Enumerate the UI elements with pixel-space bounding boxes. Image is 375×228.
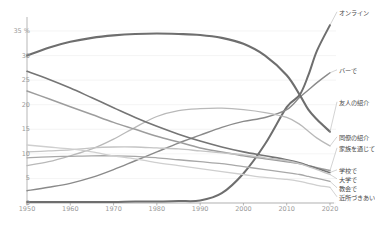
x-tick-label: 1960 [55,205,85,213]
series-label-6: 大学で [339,176,357,183]
gridlines [27,31,336,203]
series-line-3 [27,108,330,166]
y-tick-label: 35 % [0,27,30,35]
series-label-1: バーで [339,67,357,74]
y-tick-label: 25 [0,76,30,84]
label-leader-lines [330,12,337,197]
series-lines [27,25,330,202]
x-tick-label: 1980 [142,205,172,213]
x-tick-label: 2000 [228,205,258,213]
x-tick-label: 2020 [315,205,345,213]
series-line-8 [27,145,330,187]
series-label-3: 同僚の紹介 [339,134,369,141]
series-line-6 [27,147,330,175]
series-line-1 [27,73,330,191]
y-tick-label: 20 [0,101,30,109]
line-chart: 35 %302520151050 19501960197019801990200… [0,0,375,228]
series-label-0: オンライン [339,9,369,16]
x-tick-label: 1990 [185,205,215,213]
axis-lines [27,17,334,206]
series-label-5: 学校で [339,167,357,174]
series-label-7: 教会で [339,185,357,192]
series-line-5 [27,71,330,172]
series-label-4: 家族を通じて [339,145,375,152]
series-label-8: 近所づきあい [339,194,375,201]
x-tick-label: 1970 [99,205,129,213]
x-tick-label: 2010 [272,205,302,213]
x-tick-label: 1950 [12,205,42,213]
series-line-0 [27,25,330,202]
y-tick-label: 5 [0,174,30,182]
y-tick-label: 15 [0,125,30,133]
y-tick-label: 30 [0,52,30,60]
chart-canvas [0,0,375,228]
y-tick-label: 10 [0,150,30,158]
series-label-2: 友人の紹介 [339,99,369,106]
